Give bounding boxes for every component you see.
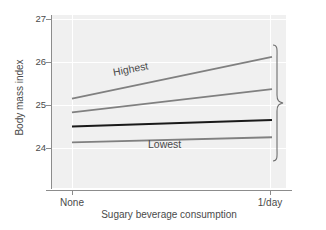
chart-figure: 27 26 25 24 None 1/day Body mass index S… — [0, 0, 326, 230]
quartiles-brace-icon — [271, 44, 287, 162]
series-line-second-quartile — [72, 120, 272, 126]
series-label-lowest: Lowest — [148, 138, 181, 150]
